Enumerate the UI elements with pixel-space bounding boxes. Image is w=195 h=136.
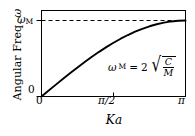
dispersion-relation-chart: Angular Freq. ω Ka ωM 0 0 π/2 π ωM = 2 √…	[0, 0, 195, 136]
dispersion-curve	[42, 21, 186, 97]
plot-area	[0, 0, 195, 136]
